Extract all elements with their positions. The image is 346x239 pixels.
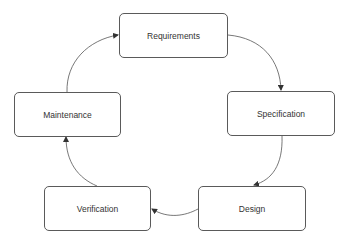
edge-specification-to-design xyxy=(254,136,282,185)
node-label: Requirements xyxy=(147,31,200,41)
node-design[interactable]: Design xyxy=(198,186,306,231)
edge-requirements-to-specification xyxy=(228,35,281,90)
node-label: Maintenance xyxy=(43,110,92,120)
node-label: Design xyxy=(239,204,265,214)
node-maintenance[interactable]: Maintenance xyxy=(14,92,121,137)
node-requirements[interactable]: Requirements xyxy=(119,13,228,58)
edge-verification-to-maintenance xyxy=(66,137,97,186)
node-verification[interactable]: Verification xyxy=(44,186,151,231)
node-label: Verification xyxy=(77,204,119,214)
edge-maintenance-to-requirements xyxy=(67,35,118,92)
node-label: Specification xyxy=(257,109,305,119)
node-specification[interactable]: Specification xyxy=(227,91,335,136)
edge-design-to-verification xyxy=(152,209,198,215)
